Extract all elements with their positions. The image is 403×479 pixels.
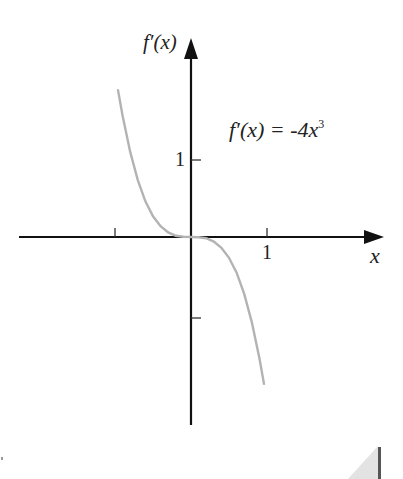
x-axis-arrow-icon xyxy=(364,230,384,244)
x-tick-label-1: 1 xyxy=(262,241,272,264)
scan-speck xyxy=(1,457,3,460)
formula-text: f′(x) = -4x xyxy=(229,117,318,142)
page-corner-shadow xyxy=(348,446,378,479)
y-axis-label: f′(x) xyxy=(143,30,177,55)
y-axis-arrow-icon xyxy=(184,38,198,59)
y-tick-label-1: 1 xyxy=(175,148,185,171)
page-edge-bar xyxy=(378,447,381,479)
plot-canvas xyxy=(0,0,403,479)
function-annotation: f′(x) = -4x3 xyxy=(229,117,324,143)
x-axis-label: x xyxy=(370,243,380,269)
formula-exponent: 3 xyxy=(318,117,324,131)
